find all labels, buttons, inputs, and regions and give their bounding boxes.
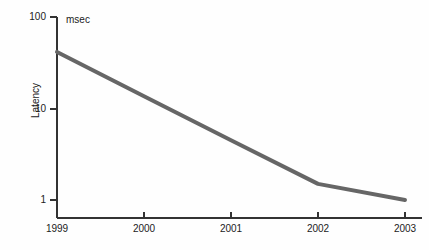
- chart-figure: 100 10 1 1999 2000 2001 2002 2003 msec L…: [0, 0, 429, 250]
- x-tick-label-2001: 2001: [211, 224, 251, 234]
- x-tick-label-1999: 1999: [37, 224, 77, 234]
- y-tick-label-1: 1: [18, 195, 46, 205]
- x-tick-label-2003: 2003: [385, 224, 425, 234]
- y-tick-label-100: 100: [18, 12, 46, 22]
- latency-line-chart: [0, 0, 429, 250]
- latency-series-line: [57, 52, 405, 200]
- unit-annotation: msec: [66, 14, 90, 25]
- y-axis-label: Latency: [30, 78, 41, 124]
- x-tick-label-2002: 2002: [298, 224, 338, 234]
- x-tick-label-2000: 2000: [124, 224, 164, 234]
